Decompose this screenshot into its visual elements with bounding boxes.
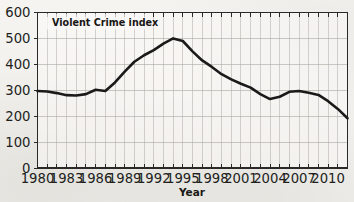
x-axis-title-label: Year (178, 186, 206, 198)
y-axis-tick-label: 200 (5, 109, 30, 124)
series-title-label: Violent Crime index (52, 17, 159, 28)
x-axis-tick-label: 2010 (311, 171, 345, 186)
y-axis-tick-labels: 0100200300400500600 (5, 5, 30, 176)
y-axis-tick-label: 500 (5, 31, 30, 46)
y-axis-tick-label: 100 (5, 135, 30, 150)
y-axis-tick-label: 300 (5, 83, 30, 98)
y-axis-tick-label: 400 (5, 57, 30, 72)
y-axis-tick-label: 600 (5, 5, 30, 20)
x-axis-tick-labels: 1980198319861989199219951998200120042007… (21, 171, 345, 186)
violent-crime-index-line-chart: 0100200300400500600 19801983198619891992… (0, 0, 354, 202)
